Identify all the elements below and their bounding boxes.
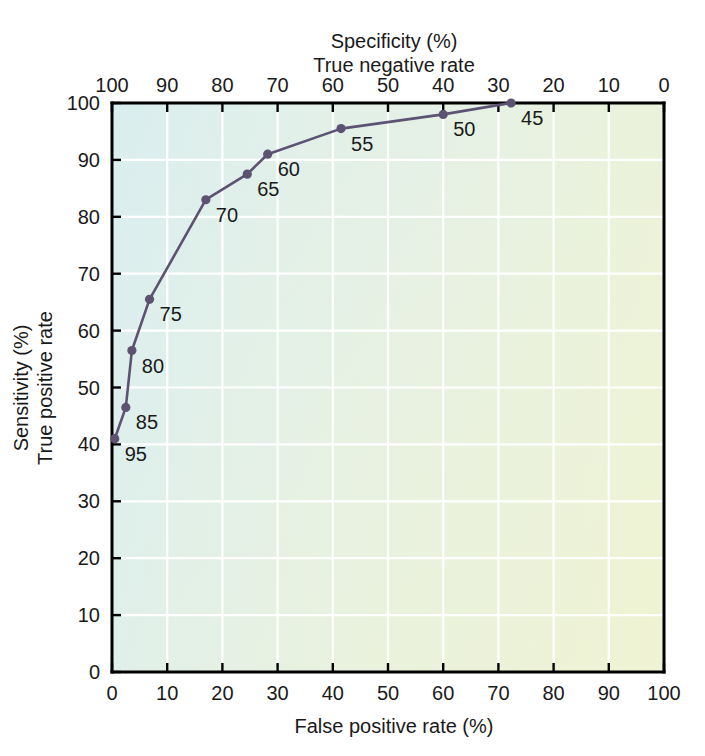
y-tick-label: 80 [78, 206, 100, 228]
y-tick-label: 20 [78, 547, 100, 569]
y-tick-label: 30 [78, 490, 100, 512]
roc-point-label: 70 [216, 204, 238, 226]
x-tick-label: 50 [377, 682, 399, 704]
x-tick-label: 30 [266, 682, 288, 704]
x-axis-title: False positive rate (%) [295, 715, 494, 737]
roc-data-point [201, 195, 210, 204]
top-axis-title-line2: True negative rate [313, 54, 475, 76]
roc-data-point [110, 434, 119, 443]
top-tick-label: 40 [432, 74, 454, 96]
top-tick-label: 20 [542, 74, 564, 96]
roc-data-point [263, 150, 272, 159]
x-tick-label: 70 [487, 682, 509, 704]
y-tick-label: 40 [78, 433, 100, 455]
top-tick-label: 50 [377, 74, 399, 96]
x-tick-label: 90 [598, 682, 620, 704]
roc-point-label: 60 [278, 158, 300, 180]
y-tick-label: 10 [78, 604, 100, 626]
x-tick-label: 100 [647, 682, 680, 704]
y-axis-title-line1: Sensitivity (%) [10, 325, 32, 452]
x-tick-label: 0 [106, 682, 117, 704]
roc-point-label: 50 [453, 118, 475, 140]
x-tick-label: 60 [432, 682, 454, 704]
roc-data-point [336, 124, 345, 133]
top-tick-label: 100 [95, 74, 128, 96]
y-tick-label: 0 [89, 661, 100, 683]
top-tick-label: 70 [266, 74, 288, 96]
top-tick-label: 30 [487, 74, 509, 96]
y-tick-label: 100 [67, 92, 100, 114]
x-tick-label: 20 [211, 682, 233, 704]
roc-data-point [145, 295, 154, 304]
roc-point-label: 45 [521, 107, 543, 129]
top-tick-label: 80 [211, 74, 233, 96]
roc-data-point [243, 170, 252, 179]
top-axis-title-line1: Specificity (%) [331, 30, 458, 52]
roc-data-point [439, 110, 448, 119]
roc-data-point [121, 403, 130, 412]
y-tick-label: 60 [78, 320, 100, 342]
x-tick-label: 10 [156, 682, 178, 704]
y-axis-title-line2: True positive rate [34, 311, 56, 465]
roc-point-label: 65 [257, 178, 279, 200]
y-axis-title-block: Sensitivity (%) True positive rate [10, 311, 56, 465]
roc-point-label: 95 [125, 443, 147, 465]
roc-point-label: 85 [136, 411, 158, 433]
top-tick-label: 90 [156, 74, 178, 96]
roc-chart: Specificity (%) True negative rate 10090… [0, 0, 705, 756]
y-tick-label: 50 [78, 377, 100, 399]
top-tick-label: 10 [598, 74, 620, 96]
roc-point-label: 75 [160, 303, 182, 325]
roc-point-label: 80 [142, 355, 164, 377]
roc-point-label: 55 [351, 133, 373, 155]
y-tick-label: 90 [78, 149, 100, 171]
y-tick-label: 70 [78, 263, 100, 285]
x-tick-label: 80 [542, 682, 564, 704]
roc-data-point [506, 98, 515, 107]
top-axis-title-block: Specificity (%) True negative rate [313, 30, 475, 76]
x-tick-label: 40 [322, 682, 344, 704]
roc-chart-svg: Specificity (%) True negative rate 10090… [0, 0, 705, 756]
top-tick-label: 60 [322, 74, 344, 96]
x-axis-title-block: False positive rate (%) [295, 715, 494, 737]
roc-data-point [127, 346, 136, 355]
top-tick-label: 0 [658, 74, 669, 96]
